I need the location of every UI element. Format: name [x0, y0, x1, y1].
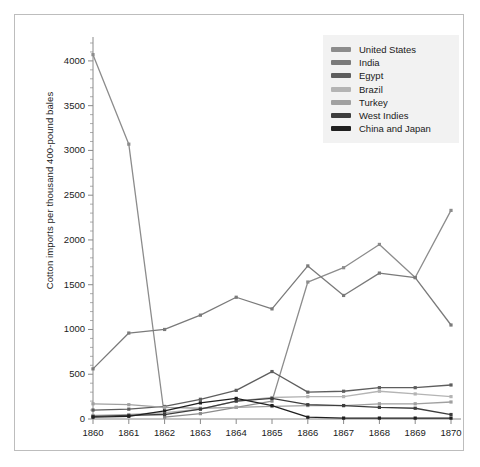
- data-point: [199, 408, 202, 411]
- data-point: [449, 417, 452, 420]
- data-point: [449, 323, 452, 326]
- legend-item[interactable]: Brazil: [331, 83, 450, 96]
- data-point: [235, 406, 238, 409]
- data-point: [378, 243, 381, 246]
- y-tick-label: 3000: [39, 145, 85, 154]
- data-point: [306, 280, 309, 283]
- data-point: [199, 401, 202, 404]
- data-point: [342, 395, 345, 398]
- y-tick-label: 2500: [39, 190, 85, 199]
- y-tick-label: 1500: [39, 280, 85, 289]
- data-point: [414, 402, 417, 405]
- data-point: [378, 402, 381, 405]
- data-point: [342, 417, 345, 420]
- legend-item[interactable]: India: [331, 56, 450, 69]
- data-point: [91, 402, 94, 405]
- data-point: [270, 397, 273, 400]
- data-point: [163, 328, 166, 331]
- data-point: [378, 386, 381, 389]
- legend-swatch-icon: [331, 100, 351, 105]
- data-point: [414, 417, 417, 420]
- data-point: [306, 391, 309, 394]
- data-point: [91, 53, 94, 56]
- data-point: [199, 398, 202, 401]
- data-point: [414, 392, 417, 395]
- data-point: [342, 294, 345, 297]
- data-point: [378, 390, 381, 393]
- data-point: [414, 386, 417, 389]
- legend-swatch-icon: [331, 73, 351, 78]
- chart-figure: Cotton imports per thousand 400-pound ba…: [14, 14, 464, 451]
- data-point: [127, 331, 130, 334]
- y-tick-label: 2000: [39, 235, 85, 244]
- data-point: [378, 406, 381, 409]
- data-point: [91, 367, 94, 370]
- data-point: [270, 404, 273, 407]
- data-point: [342, 404, 345, 407]
- y-tick-label: 3500: [39, 101, 85, 110]
- data-point: [127, 143, 130, 146]
- legend-label: United States: [359, 44, 416, 55]
- data-point: [270, 370, 273, 373]
- data-point: [342, 390, 345, 393]
- data-point: [199, 412, 202, 415]
- legend-label: Brazil: [359, 84, 383, 95]
- data-point: [163, 409, 166, 412]
- legend-item[interactable]: Turkey: [331, 96, 450, 109]
- data-point: [306, 416, 309, 419]
- legend-swatch-icon: [331, 126, 351, 131]
- legend-swatch-icon: [331, 113, 351, 118]
- data-point: [235, 397, 238, 400]
- legend-swatch-icon: [331, 87, 351, 92]
- data-point: [127, 415, 130, 418]
- data-point: [449, 413, 452, 416]
- data-point: [342, 266, 345, 269]
- data-point: [163, 406, 166, 409]
- y-tick-label: 500: [39, 369, 85, 378]
- data-point: [235, 296, 238, 299]
- legend-label: Egypt: [359, 70, 383, 81]
- data-point: [235, 389, 238, 392]
- data-point: [127, 403, 130, 406]
- x-tick-label: 1870: [428, 427, 474, 438]
- data-point: [378, 271, 381, 274]
- data-point: [199, 314, 202, 317]
- data-point: [306, 403, 309, 406]
- series-india: [91, 264, 452, 370]
- y-tick-label: 1000: [39, 324, 85, 333]
- legend-label: Turkey: [359, 97, 388, 108]
- data-point: [414, 276, 417, 279]
- legend-item[interactable]: United States: [331, 43, 450, 56]
- data-point: [449, 400, 452, 403]
- data-point: [449, 395, 452, 398]
- data-point: [306, 264, 309, 267]
- legend-label: West Indies: [359, 110, 408, 121]
- data-point: [163, 413, 166, 416]
- y-tick-label: 0: [39, 414, 85, 423]
- legend-label: China and Japan: [359, 123, 431, 134]
- legend-label: India: [359, 57, 380, 68]
- data-point: [449, 209, 452, 212]
- legend-swatch-icon: [331, 60, 351, 65]
- data-point: [91, 408, 94, 411]
- data-point: [378, 417, 381, 420]
- data-point: [91, 416, 94, 419]
- legend-item[interactable]: West Indies: [331, 109, 450, 122]
- legend-item[interactable]: Egypt: [331, 69, 450, 82]
- chart-legend: United StatesIndiaEgyptBrazilTurkeyWest …: [323, 35, 459, 143]
- data-point: [449, 383, 452, 386]
- data-point: [306, 395, 309, 398]
- legend-item[interactable]: China and Japan: [331, 122, 450, 135]
- data-point: [414, 407, 417, 410]
- data-point: [127, 408, 130, 411]
- legend-swatch-icon: [331, 47, 351, 52]
- data-point: [270, 307, 273, 310]
- y-tick-label: 4000: [39, 56, 85, 65]
